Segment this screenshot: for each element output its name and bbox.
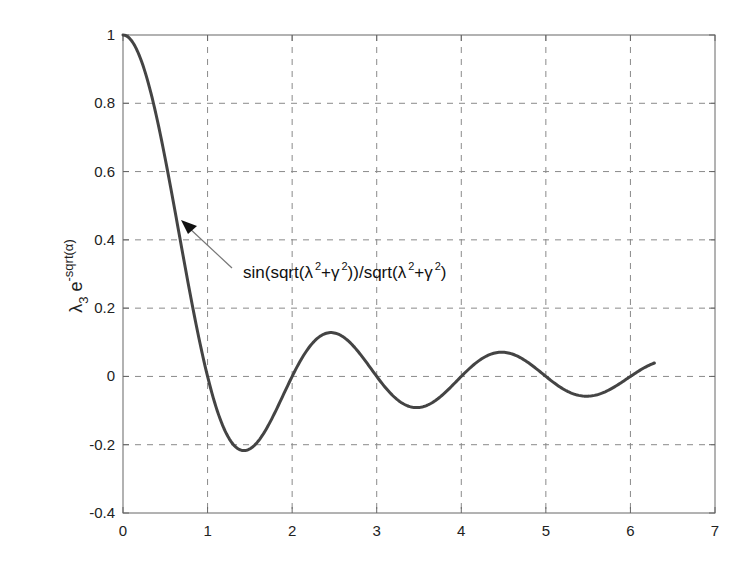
x-tick-label: 6	[626, 522, 634, 539]
y-tick-label: 0.4	[94, 231, 115, 248]
annotation-label: sin(sqrt(λ2+γ2))/sqrt(λ2+γ2)	[243, 260, 447, 282]
arrowhead-icon	[181, 220, 197, 234]
y-tick-label: 0.2	[94, 299, 115, 316]
x-tick-label: 5	[542, 522, 550, 539]
y-tick-label: -0.4	[89, 504, 115, 521]
x-tick-label: 1	[203, 522, 211, 539]
chart: 01234567 -0.4-0.200.20.40.60.81 sin(sqrt…	[0, 0, 755, 562]
x-tick-label: 7	[711, 522, 719, 539]
x-tick-label: 4	[457, 522, 465, 539]
y-tick-label: 0.6	[94, 163, 115, 180]
x-tick-label: 0	[119, 522, 127, 539]
data-line-sinc	[123, 35, 654, 451]
x-tick-label: 3	[373, 522, 381, 539]
y-tick-labels: -0.4-0.200.20.40.60.81	[89, 26, 115, 521]
y-tick-label: 0.8	[94, 94, 115, 111]
x-tick-label: 2	[288, 522, 296, 539]
annotation-arrow	[181, 220, 232, 268]
y-tick-label: -0.2	[89, 436, 115, 453]
y-tick-label: 0	[107, 367, 115, 384]
y-axis-label: λ3 e-sqrt(α)	[61, 239, 91, 312]
y-tick-label: 1	[107, 26, 115, 43]
x-tick-labels: 01234567	[119, 522, 719, 539]
